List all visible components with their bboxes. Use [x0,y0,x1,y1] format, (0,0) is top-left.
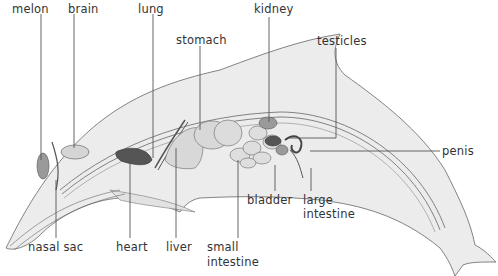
label-heart: heart [116,240,148,254]
dolphin-illustration [0,0,498,276]
label-lung: lung [138,2,164,16]
label-large-intestine-2: intestine [303,207,355,221]
brain-organ [61,145,89,159]
label-kidney: kidney [254,2,294,16]
testicles-organ [265,136,281,146]
kidney-organ [259,117,277,129]
label-brain: brain [68,2,99,16]
label-large-intestine-1: large [303,193,333,207]
label-liver: liver [166,240,192,254]
label-bladder: bladder [247,193,292,207]
dolphin-anatomy-diagram: melon brain lung stomach kidney testicle… [0,0,498,276]
label-small-intestine-1: small [207,240,239,254]
label-melon: melon [12,2,49,16]
label-stomach: stomach [176,33,227,47]
label-nasal-sac: nasal sac [28,240,83,254]
label-testicles: testicles [317,34,367,48]
label-penis: penis [442,144,474,158]
bladder-organ [276,145,288,155]
melon-organ [37,153,49,179]
label-small-intestine-2: intestine [207,255,259,269]
